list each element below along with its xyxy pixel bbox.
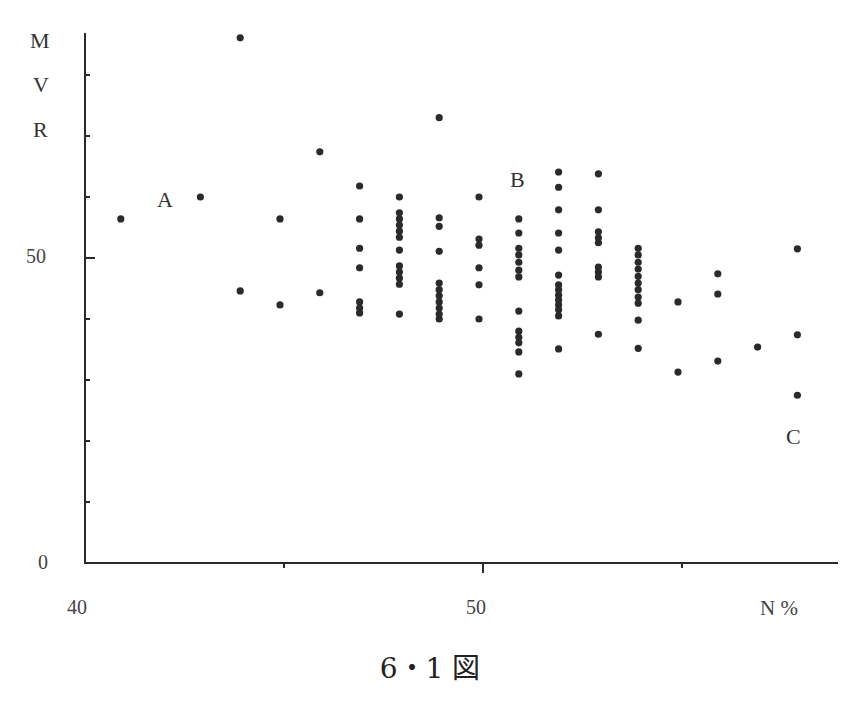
data-point xyxy=(714,357,721,364)
data-point xyxy=(356,245,363,252)
x-axis xyxy=(84,563,838,573)
annotation-c: C xyxy=(786,424,801,450)
data-point xyxy=(555,271,562,278)
data-point xyxy=(555,168,562,175)
data-point xyxy=(237,287,244,294)
figure-caption: 6・1 図 xyxy=(0,646,860,686)
data-point xyxy=(674,298,681,305)
data-point xyxy=(635,286,642,293)
y-tick-label-0: 0 xyxy=(38,551,48,574)
data-point xyxy=(555,345,562,352)
data-point xyxy=(794,245,801,252)
data-point xyxy=(635,279,642,286)
data-point xyxy=(515,259,522,266)
data-point xyxy=(635,300,642,307)
data-point xyxy=(475,315,482,322)
data-point xyxy=(635,245,642,252)
y-axis-label-r: R xyxy=(33,117,48,143)
data-point xyxy=(436,114,443,121)
data-point xyxy=(356,309,363,316)
data-point xyxy=(555,229,562,236)
data-point xyxy=(515,348,522,355)
data-point xyxy=(396,311,403,318)
data-point xyxy=(276,215,283,222)
data-point xyxy=(635,345,642,352)
data-point xyxy=(475,264,482,271)
data-point xyxy=(674,368,681,375)
data-points xyxy=(117,34,801,399)
data-point xyxy=(436,279,443,286)
y-axis-label-v: V xyxy=(33,72,49,98)
data-point xyxy=(356,182,363,189)
data-point xyxy=(555,246,562,253)
scatter-plot xyxy=(0,0,860,716)
x-tick-label-50: 50 xyxy=(466,596,486,619)
annotation-b: B xyxy=(510,167,525,193)
data-point xyxy=(475,281,482,288)
data-point xyxy=(635,265,642,272)
data-point xyxy=(595,273,602,280)
data-point xyxy=(396,234,403,241)
data-point xyxy=(316,148,323,155)
data-point xyxy=(595,331,602,338)
data-point xyxy=(276,301,283,308)
y-tick-label-50: 50 xyxy=(26,245,46,268)
data-point xyxy=(356,264,363,271)
annotation-a: A xyxy=(157,187,173,213)
data-point xyxy=(794,392,801,399)
data-point xyxy=(515,251,522,258)
data-point xyxy=(635,251,642,258)
data-point xyxy=(396,281,403,288)
data-point xyxy=(555,206,562,213)
data-point xyxy=(436,315,443,322)
data-point xyxy=(635,317,642,324)
data-point xyxy=(555,312,562,319)
data-point xyxy=(595,239,602,246)
x-axis-title: N % xyxy=(760,596,798,621)
data-point xyxy=(515,215,522,222)
data-point xyxy=(714,290,721,297)
data-point xyxy=(237,34,244,41)
data-point xyxy=(595,206,602,213)
data-point xyxy=(475,242,482,249)
x-tick-label-40: 40 xyxy=(67,596,87,619)
data-point xyxy=(316,289,323,296)
data-point xyxy=(754,343,761,350)
data-point xyxy=(635,273,642,280)
data-point xyxy=(555,184,562,191)
data-point xyxy=(396,246,403,253)
data-point xyxy=(515,370,522,377)
data-point xyxy=(436,223,443,230)
data-point xyxy=(714,270,721,277)
data-point xyxy=(515,273,522,280)
y-axis-label-m: M xyxy=(30,28,50,54)
y-axis xyxy=(85,33,95,564)
data-point xyxy=(197,193,204,200)
data-point xyxy=(515,267,522,274)
data-point xyxy=(635,259,642,266)
data-point xyxy=(794,331,801,338)
data-point xyxy=(515,229,522,236)
data-point xyxy=(117,215,124,222)
data-point xyxy=(515,307,522,314)
data-point xyxy=(396,193,403,200)
data-point xyxy=(436,248,443,255)
data-point xyxy=(475,193,482,200)
data-point xyxy=(595,170,602,177)
data-point xyxy=(515,339,522,346)
data-point xyxy=(356,215,363,222)
data-point xyxy=(436,214,443,221)
data-point xyxy=(515,245,522,252)
